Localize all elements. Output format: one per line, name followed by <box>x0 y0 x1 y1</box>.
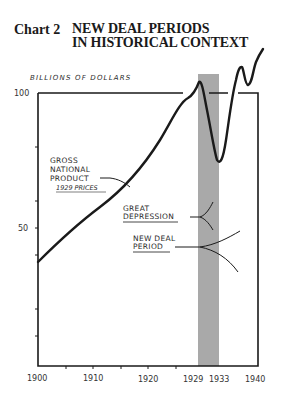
x-tick-1929: 1929 <box>183 375 203 384</box>
y-tick-100: 100 <box>14 89 29 98</box>
depression-label-line2: DEPRESSION <box>123 212 174 221</box>
gnp-label-line3: PRODUCT <box>50 174 89 183</box>
chart-canvas: 100 50 1900 1910 1920 1929 1933 1940 GRO… <box>0 0 281 400</box>
gnp-label-line2: NATIONAL <box>50 165 91 174</box>
x-tick-1940: 1940 <box>245 375 265 384</box>
gnp-label-line4: 1929 PRICES <box>56 184 98 192</box>
x-tick-1920: 1920 <box>138 375 158 384</box>
x-tick-1910: 1910 <box>83 374 103 383</box>
y-tick-50: 50 <box>18 224 28 233</box>
x-tick-1900: 1900 <box>27 374 47 383</box>
gnp-label-line1: GROSS <box>50 156 78 165</box>
x-tick-1933: 1933 <box>209 375 229 384</box>
newdeal-label-line2: PERIOD <box>133 242 163 251</box>
